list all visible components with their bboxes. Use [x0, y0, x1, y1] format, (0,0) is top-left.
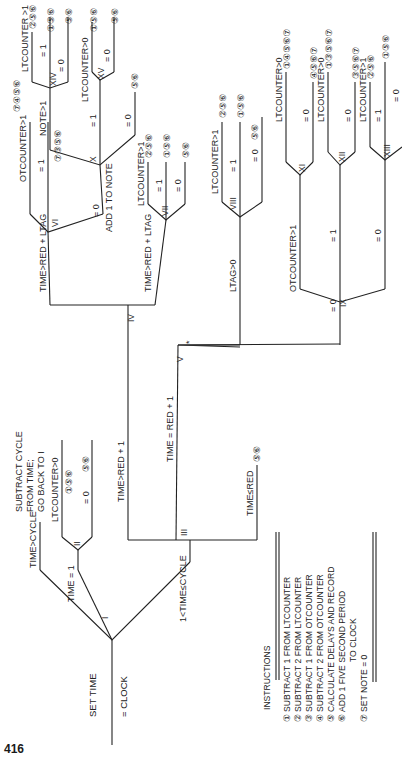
outcome-xii-gt0: ①③⑤⑥⑦ — [324, 29, 334, 69]
instruction-1-text: SUBTRACT 1 FROM LTCOUNTER — [282, 577, 292, 712]
branch-time-le-red: TIME≤RED — [245, 470, 255, 516]
instruction-6-text-cont: TO CLOCK — [348, 618, 358, 662]
outcome-xiv-eq1: ①⑤⑥ — [46, 8, 56, 32]
instruction-5-num: ⑤ — [326, 714, 336, 722]
outcome-vi-gt1: ⑦④⑤⑥ — [12, 80, 22, 112]
branch-ix-otcounter-gt1: OTCOUNTER>1 — [288, 225, 298, 292]
outcome-xiv-gt1: ②⑤⑥ — [28, 5, 38, 29]
branch-time-gt-red1: TIME>RED + 1 — [116, 441, 126, 502]
branch-1-lt-time-le-cycle: 1<TIME≤CYCLE — [178, 555, 188, 622]
decision-tree-diagram: SET TIME = CLOCK I TIME>CYCLE SUBTRACT C… — [0, 0, 402, 762]
branch-ii-ltcounter-gt0: LTCOUNTER>0 — [50, 457, 60, 522]
instruction-4-text: SUBTRACT 2 FROM OTCOUNTER — [315, 574, 325, 712]
instruction-6-num: ⑥ — [337, 714, 347, 722]
outcome-xv-eq0: ⑤⑥ — [110, 8, 120, 24]
outcome-xi-gt0: ①④⑤⑥⑦ — [282, 29, 292, 69]
branch-xiii-eq0: = 0 — [391, 89, 401, 102]
branch-xv-eq0: = 0 — [102, 49, 112, 62]
branch-iv-bottom: TIME>RED + LTAG — [143, 214, 153, 292]
branch-viii-eq1: = 1 — [228, 159, 238, 172]
v-star: * — [184, 340, 194, 344]
branch-viii-eq0: = 0 — [250, 149, 260, 162]
outcome-viii-gt1: ②⑤⑥ — [218, 94, 228, 118]
outcome-x-eq0: ⑤⑥ — [130, 73, 140, 89]
outcome-vii-gt1: ②⑤⑥ — [144, 134, 154, 158]
instruction-4-num: ④ — [315, 714, 325, 722]
node-XIII: XIII — [382, 144, 392, 157]
node-X: X — [88, 156, 98, 162]
branch-vii-eq0: = 0 — [173, 179, 183, 192]
instruction-6-text: ADD 1 FIVE SECOND PERIOD — [337, 591, 347, 712]
branch-vi-eq0: = 0 — [91, 204, 101, 217]
branch-x-note-gt1: NOTE>1 — [38, 101, 48, 136]
node-II: II — [72, 541, 82, 546]
branch-v-ltag-gt0: LTAG>0 — [228, 260, 238, 292]
node-IV: IV — [126, 314, 136, 322]
outcome-xiv-eq0: ⑤⑥ — [64, 8, 74, 24]
subtract-cycle-3: GO BACK TO I — [36, 451, 46, 512]
branch-xiii-eq1: = 1 — [373, 109, 383, 122]
branch-time-gt-cycle: TIME>CYCLE — [28, 511, 38, 568]
outcome-vii-eq1: ①⑤⑥ — [162, 134, 172, 158]
branch-ix-eq0: = 0 — [373, 229, 383, 242]
instruction-2-text: SUBTRACT 2 FROM LTCOUNTER — [293, 577, 303, 712]
outcome-vii-eq0: ⑤⑥ — [181, 142, 191, 158]
instruction-2-num: ② — [293, 714, 303, 722]
instruction-7-num: ⑦ — [359, 714, 369, 722]
instruction-1: ① — [282, 714, 292, 722]
add-1-to-note: ADD 1 TO NOTE — [104, 163, 114, 232]
node-I: I — [100, 617, 110, 619]
node-III: III — [179, 529, 189, 536]
branch-ix-eq1: = 1 — [328, 229, 338, 242]
instruction-5-text: CALCULATE DELAYS AND RECORD — [326, 567, 336, 712]
outcome-viii-eq0: ⑤⑥ — [250, 124, 260, 140]
branch-viii-ltcounter-gt1: LTCOUNTER>1 — [210, 129, 220, 194]
branch-ii-eq0: = 0 — [81, 491, 91, 504]
node-VI: VI — [50, 219, 60, 227]
outcome-time-le-red: ⑤⑥ — [252, 446, 262, 462]
branch-xiv-eq1: = 1 — [38, 44, 48, 57]
outcome-vi-eq1: ⑦③⑤⑥ — [53, 130, 63, 162]
branch-time-eq-1: TIME = 1 — [66, 565, 76, 602]
node-VII: VII — [160, 206, 170, 216]
branch-xiv-eq0: = 0 — [56, 59, 66, 72]
outcome-viii-eq1: ①⑤⑥ — [236, 94, 246, 118]
outcome-ii-eq0: ⑤⑥ — [81, 456, 91, 472]
subtract-cycle-1: SUBTRACT CYCLE — [14, 431, 24, 512]
branch-xv-ltcounter-gt0: LTCOUNTER>0 — [80, 37, 90, 102]
branch-vii-eq1: = 1 — [154, 179, 164, 192]
node-V: V — [175, 356, 185, 362]
subtract-cycle-2: FROM TIME; — [25, 459, 35, 512]
instructions-title: INSTRUCTIONS — [262, 645, 272, 710]
branch-x-eq1: = 1 — [88, 114, 98, 127]
instruction-3-text: SUBTRACT 1 FROM OTCOUNTER — [304, 574, 314, 712]
branch-vi-eq1: = 1 — [36, 159, 46, 172]
outcome-xiii-eq1: ①⑤⑥ — [381, 35, 391, 59]
branch-vi-otcounter-gt1: OTCOUNTER>1 — [18, 115, 28, 182]
branch-iv-top: TIME>RED + LTAG — [38, 214, 48, 292]
branch-xi-eq0: = 0 — [301, 109, 311, 122]
outcome-xv-gt0: ①⑤⑥ — [89, 8, 99, 32]
branch-time-eq-red1: TIME = RED + 1 — [165, 396, 175, 462]
node-XI: XI — [297, 164, 307, 172]
start-label-2: = CLOCK — [118, 675, 129, 717]
branch-x-eq0: = 0 — [123, 114, 133, 127]
branch-xii-eq0: = 0 — [343, 109, 353, 122]
start-label-1: SET TIME — [87, 674, 98, 717]
outcome-ii-gt0: ①⑤⑥ — [64, 470, 74, 494]
instruction-3-num: ③ — [304, 714, 314, 722]
outcome-xiii-gt1: ②⑤⑥ — [366, 55, 376, 79]
instructions-legend: INSTRUCTIONS ① SUBTRACT 1 FROM LTCOUNTER… — [262, 532, 376, 722]
instruction-7-text: SET NOTE = 0 — [359, 654, 369, 712]
